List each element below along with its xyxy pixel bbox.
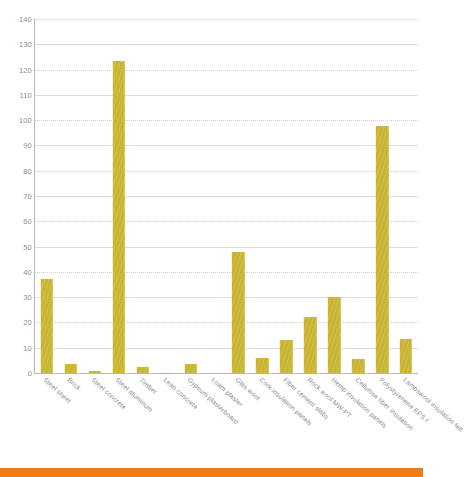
x-axis-label: Fiber cement slabs bbox=[282, 376, 330, 420]
bar[interactable] bbox=[256, 358, 268, 373]
bar-slot bbox=[250, 19, 274, 373]
bar[interactable] bbox=[137, 367, 149, 373]
bar[interactable] bbox=[352, 359, 364, 373]
bar[interactable] bbox=[184, 364, 196, 373]
bar-slot bbox=[298, 19, 322, 373]
bar-slot bbox=[394, 19, 418, 373]
y-tick-label-60: 60 bbox=[2, 217, 32, 226]
x-axis-label: Timber bbox=[139, 376, 159, 395]
y-tick-label-30: 30 bbox=[2, 293, 32, 302]
bar-slot bbox=[203, 19, 227, 373]
bar-slot bbox=[35, 19, 59, 373]
bar-slot bbox=[346, 19, 370, 373]
y-tick-label-120: 120 bbox=[2, 65, 32, 74]
bar-slot bbox=[322, 19, 346, 373]
y-axis-ticks: 0102030405060708090100110120130140 bbox=[0, 0, 32, 477]
x-axis-label: Rock wool MW-PT bbox=[306, 376, 353, 419]
bar-slot bbox=[274, 19, 298, 373]
bar[interactable] bbox=[113, 61, 125, 373]
bar-slot bbox=[179, 19, 203, 373]
y-tick-label-40: 40 bbox=[2, 267, 32, 276]
bar[interactable] bbox=[328, 297, 340, 373]
y-tick-label-20: 20 bbox=[2, 318, 32, 327]
y-tick-label-0: 0 bbox=[2, 369, 32, 378]
bar-slot bbox=[155, 19, 179, 373]
bar[interactable] bbox=[304, 317, 316, 373]
bar-slot bbox=[370, 19, 394, 373]
bar-slot bbox=[59, 19, 83, 373]
bar[interactable] bbox=[89, 371, 101, 373]
bar-slot bbox=[107, 19, 131, 373]
bar[interactable] bbox=[280, 340, 292, 373]
x-axis-labels: Steel sheetBrickSteel concreteSteel alum… bbox=[35, 374, 418, 474]
bar[interactable] bbox=[232, 252, 244, 373]
y-tick-label-50: 50 bbox=[2, 242, 32, 251]
y-tick-label-110: 110 bbox=[2, 90, 32, 99]
y-tick-label-100: 100 bbox=[2, 116, 32, 125]
bar[interactable] bbox=[41, 279, 53, 373]
x-axis-label: Brick bbox=[67, 376, 83, 392]
bar-slot bbox=[227, 19, 251, 373]
bar[interactable] bbox=[160, 373, 172, 374]
y-tick-label-10: 10 bbox=[2, 343, 32, 352]
y-tick-label-70: 70 bbox=[2, 192, 32, 201]
footer-accent-bar bbox=[0, 468, 423, 477]
bars-layer bbox=[35, 19, 418, 373]
bar[interactable] bbox=[400, 339, 412, 373]
y-tick-label-90: 90 bbox=[2, 141, 32, 150]
bar[interactable] bbox=[65, 364, 77, 373]
bar-slot bbox=[131, 19, 155, 373]
bar-slot bbox=[83, 19, 107, 373]
y-tick-label-140: 140 bbox=[2, 15, 32, 24]
y-tick-label-130: 130 bbox=[2, 40, 32, 49]
bar[interactable] bbox=[376, 126, 388, 373]
y-tick-label-80: 80 bbox=[2, 166, 32, 175]
